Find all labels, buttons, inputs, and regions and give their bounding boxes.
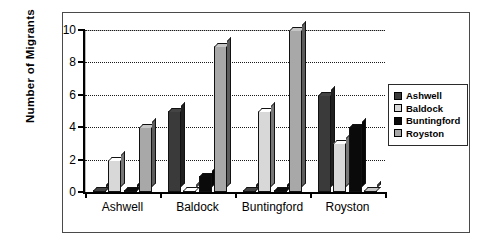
x-axis-tick-mark [310, 192, 312, 198]
bar-side-face [181, 102, 185, 187]
bar [199, 176, 212, 192]
chart-figure: Number of Migrants 0246810 AshwellBaldoc… [0, 0, 490, 248]
legend-swatch-icon [394, 92, 402, 100]
gridline [85, 62, 385, 63]
bar [318, 95, 331, 192]
gridline [85, 30, 385, 31]
x-axis-tick-mark [385, 192, 387, 198]
y-axis-tick-mark [78, 61, 85, 63]
y-axis-tick-label: 8 [46, 55, 76, 69]
y-axis-tick-label: 10 [46, 23, 76, 37]
legend-swatch-icon [394, 129, 402, 137]
bar-side-face [227, 37, 231, 187]
bar [124, 190, 137, 193]
bar [364, 190, 377, 193]
bar-side-face [302, 21, 306, 187]
legend-swatch-icon [394, 104, 402, 112]
x-axis-spine [83, 192, 385, 194]
legend-item[interactable]: Baldock [394, 104, 463, 114]
bar-side-face [362, 118, 366, 187]
y-axis-tick-label: 0 [46, 185, 76, 199]
y-axis-tick-mark [78, 94, 85, 96]
bar [349, 127, 362, 192]
legend-item-label: Buntingford [406, 116, 460, 126]
bar [108, 160, 121, 192]
legend-item-label: Royston [406, 129, 444, 139]
chart-legend: AshwellBaldockBuntingfordRoyston [388, 84, 468, 146]
x-axis-group-label: Royston [325, 200, 369, 214]
y-axis-tick-label: 2 [46, 153, 76, 167]
bar [139, 127, 152, 192]
x-axis-tick-mark [85, 192, 87, 198]
x-axis-group-label: Baldock [176, 200, 219, 214]
x-axis-group-label: Buntingford [242, 200, 303, 214]
y-axis-tick-mark [78, 126, 85, 128]
y-axis-title: Number of Migrants [24, 0, 36, 156]
y-axis-tick-mark [78, 159, 85, 161]
legend-swatch-icon [394, 117, 402, 125]
bar [243, 190, 256, 193]
legend-item[interactable]: Buntingford [394, 116, 463, 126]
legend-item[interactable]: Royston [394, 129, 463, 139]
bar [289, 30, 302, 192]
gridline [85, 95, 385, 96]
y-axis-tick-mark [78, 29, 85, 31]
bar-side-face [271, 102, 275, 187]
bar [333, 143, 346, 192]
bar [258, 111, 271, 192]
y-axis-tick-mark [78, 191, 85, 193]
y-axis-tick-label: 4 [46, 120, 76, 134]
bar [183, 190, 196, 193]
legend-item-label: Ashwell [406, 91, 442, 101]
bar-side-face [121, 151, 125, 187]
legend-item[interactable]: Ashwell [394, 91, 463, 101]
x-axis-tick-mark [160, 192, 162, 198]
bar [274, 190, 287, 193]
x-axis-tick-mark [235, 192, 237, 198]
bar [214, 46, 227, 192]
y-axis-tick-label: 6 [46, 88, 76, 102]
plot-area [85, 30, 385, 192]
x-axis-group-label: Ashwell [102, 200, 143, 214]
legend-item-label: Baldock [406, 104, 443, 114]
bar [93, 190, 106, 193]
gridline [85, 127, 385, 128]
bar [168, 111, 181, 192]
y-axis-tick-labels: 0246810 [42, 0, 76, 248]
bar-side-face [152, 118, 156, 187]
